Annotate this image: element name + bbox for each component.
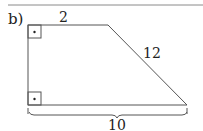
- right-angle-marker-bottom: [28, 92, 41, 105]
- trapezoid-diagram: b) 2 12 10: [0, 0, 203, 131]
- top-side-label: 2: [59, 9, 68, 25]
- bottom-side-label: 10: [108, 117, 126, 131]
- right-angle-marker-top: [28, 25, 41, 38]
- trapezoid-shape: [28, 25, 187, 105]
- slant-side-label: 12: [143, 45, 161, 61]
- problem-label: b): [8, 10, 23, 28]
